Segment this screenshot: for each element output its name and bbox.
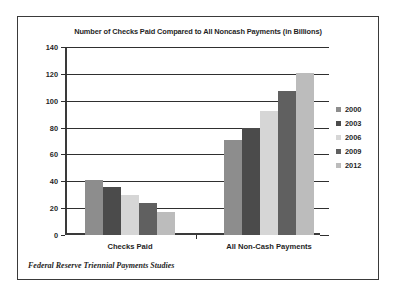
plot-inner: 020406080100120140 Checks PaidAll Non-Ca…: [65, 47, 320, 235]
x-axis-separator-tick: [196, 235, 197, 239]
y-axis-tick-right: [320, 47, 329, 48]
y-axis-tick-label: 140: [46, 43, 58, 52]
legend-swatch-icon: [336, 135, 341, 140]
y-axis-tick-label: 80: [50, 123, 58, 132]
category-label: Checks Paid: [107, 242, 152, 251]
bar: [242, 128, 260, 235]
bar: [139, 203, 157, 235]
legend-item-2006[interactable]: 2006: [336, 130, 380, 144]
y-axis-tick-right: [320, 181, 329, 182]
y-axis-tick: [61, 47, 65, 48]
legend-item-2012[interactable]: 2012: [336, 158, 380, 172]
legend-item-2003[interactable]: 2003: [336, 116, 380, 130]
legend-item-label: 2009: [345, 147, 361, 156]
y-axis-tick-label: 0: [54, 231, 58, 240]
y-axis-tick-right: [320, 74, 329, 75]
y-axis-tick: [61, 128, 65, 129]
source-note: Federal Reserve Triennial Payments Studi…: [28, 261, 174, 270]
chart-title: Number of Checks Paid Compared to All No…: [18, 27, 378, 36]
chart-figure: Number of Checks Paid Compared to All No…: [17, 16, 379, 280]
y-axis-tick-right: [320, 154, 329, 155]
bar: [296, 73, 314, 235]
y-axis-tick-right: [320, 128, 329, 129]
legend-swatch-icon: [336, 163, 341, 168]
y-axis-tick: [61, 74, 65, 75]
y-axis-tick-label: 120: [46, 69, 58, 78]
bar: [85, 180, 103, 235]
y-axis-tick: [61, 235, 65, 236]
plot-area: 020406080100120140 Checks PaidAll Non-Ca…: [65, 47, 320, 235]
bar-group: [85, 47, 175, 235]
category-label: All Non-Cash Payments: [226, 242, 312, 251]
y-axis-tick-right: [320, 101, 329, 102]
y-axis-tick: [61, 101, 65, 102]
bar: [260, 111, 278, 235]
legend-swatch-icon: [336, 121, 341, 126]
bar: [224, 140, 242, 235]
y-axis-tick: [61, 208, 65, 209]
bar: [103, 187, 121, 235]
y-axis-tick-label: 40: [50, 177, 58, 186]
y-axis-tick: [61, 181, 65, 182]
legend-item-label: 2012: [345, 161, 361, 170]
y-axis-tick-label: 60: [50, 150, 58, 159]
legend-item-2009[interactable]: 2009: [336, 144, 380, 158]
legend-swatch-icon: [336, 149, 341, 154]
y-axis-line: [65, 47, 67, 235]
legend-item-label: 2003: [345, 119, 361, 128]
y-axis-tick-right: [320, 208, 329, 209]
legend-item-label: 2006: [345, 133, 361, 142]
bar: [121, 195, 139, 235]
legend-item-2000[interactable]: 2000: [336, 102, 380, 116]
bar-group: [224, 47, 314, 235]
bar: [157, 212, 175, 235]
legend-swatch-icon: [336, 107, 341, 112]
chart-legend: 20002003200620092012: [336, 102, 380, 172]
bar: [278, 91, 296, 235]
y-axis-tick-label: 100: [46, 96, 58, 105]
y-axis-tick-right: [320, 235, 329, 236]
y-axis-tick-label: 20: [50, 204, 58, 213]
y-axis-tick: [61, 154, 65, 155]
legend-item-label: 2000: [345, 105, 361, 114]
